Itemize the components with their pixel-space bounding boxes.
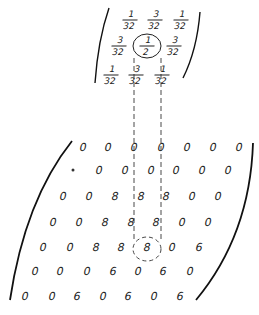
convolution-diagram: 13233213233212332132332132 0000000000000… xyxy=(0,0,259,315)
kernel-denominator: 32 xyxy=(166,48,179,57)
kernel-numerator: 1 xyxy=(158,65,168,74)
kernel-denominator: 32 xyxy=(173,22,186,31)
kernel-denominator: 32 xyxy=(122,22,135,31)
grid-left-bracket xyxy=(10,141,72,300)
kernel-denominator: 32 xyxy=(147,22,160,31)
kernel-denominator: 32 xyxy=(154,77,167,86)
kernel-numerator: 1 xyxy=(143,36,153,45)
kernel-numerator: 1 xyxy=(107,65,117,74)
kernel-denominator: 32 xyxy=(111,48,124,57)
kernel-numerator: 3 xyxy=(151,10,161,19)
grid-marker-dot xyxy=(72,169,75,172)
kernel-numerator: 3 xyxy=(115,36,125,45)
kernel-numerator: 1 xyxy=(177,10,187,19)
kernel-numerator: 3 xyxy=(132,65,142,74)
kernel-denominator: 2 xyxy=(142,48,150,57)
kernel-denominator: 32 xyxy=(103,77,116,86)
kernel-numerator: 1 xyxy=(126,10,136,19)
kernel-denominator: 32 xyxy=(128,77,141,86)
kernel-numerator: 3 xyxy=(170,36,180,45)
